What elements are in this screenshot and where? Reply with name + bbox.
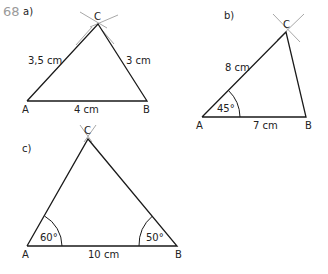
triangle-c-edges bbox=[27, 139, 177, 246]
vertex-a: A bbox=[22, 104, 29, 115]
exercise-number: 68 bbox=[3, 4, 20, 19]
side-ab-length: 4 cm bbox=[74, 104, 99, 115]
construction-arc bbox=[76, 27, 92, 45]
triangle-a-label: a) bbox=[23, 6, 33, 17]
side-ab-length: 10 cm bbox=[88, 249, 119, 260]
triangle-a: a) C A B 3,5 cm 3 cm 4 cm bbox=[22, 6, 151, 115]
angle-a-value: 60° bbox=[40, 232, 58, 243]
vertex-b: B bbox=[175, 249, 182, 260]
vertex-b: B bbox=[305, 120, 312, 131]
angle-a-value: 45° bbox=[217, 103, 235, 114]
vertex-c: C bbox=[84, 125, 91, 136]
vertex-c: C bbox=[283, 19, 290, 30]
vertex-c: C bbox=[94, 11, 101, 22]
side-bc-length: 3 cm bbox=[126, 55, 151, 66]
triangle-b: b) C A B 8 cm 7 cm 45° bbox=[196, 10, 312, 131]
triangle-b-label: b) bbox=[224, 10, 234, 21]
angle-b-value: 50° bbox=[146, 232, 164, 243]
vertex-a: A bbox=[22, 249, 29, 260]
triangle-construction-figure: 68 a) C A B 3,5 cm 3 cm 4 cm b) C A B 8 … bbox=[0, 0, 328, 274]
vertex-a: A bbox=[196, 120, 203, 131]
side-ab-length: 7 cm bbox=[253, 120, 278, 131]
vertex-b: B bbox=[143, 104, 150, 115]
triangle-c-label: c) bbox=[22, 143, 31, 154]
triangle-c: c) C A B 10 cm 60° 50° bbox=[22, 125, 182, 260]
side-ac-length: 8 cm bbox=[225, 62, 250, 73]
side-ac-length: 3,5 cm bbox=[28, 55, 62, 66]
